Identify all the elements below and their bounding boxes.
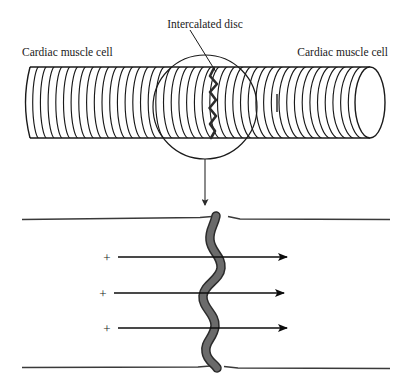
charge-symbol-1: + xyxy=(103,250,110,265)
cardiac-muscle-cell-label-left: Cardiac muscle cell xyxy=(22,46,113,58)
charge-symbol-3: + xyxy=(103,321,110,336)
cardiac-muscle-cell-label-right: Cardiac muscle cell xyxy=(297,46,388,58)
cardiac-muscle-intercalated-disc-diagram: Intercalated disc Cardiac muscle cell Ca… xyxy=(0,0,410,388)
cylinder-right-cap xyxy=(355,67,385,138)
intercalated-disc-label: Intercalated disc xyxy=(167,18,243,30)
charge-symbol-2: + xyxy=(99,286,106,301)
